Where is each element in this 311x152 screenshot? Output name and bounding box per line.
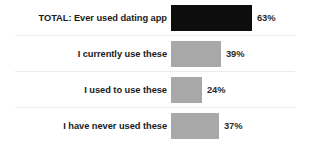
bar-segment bbox=[171, 77, 202, 103]
chart-rows: TOTAL: Ever used dating app 63% I curren… bbox=[0, 0, 311, 152]
bar-label: I have never used these bbox=[8, 121, 167, 132]
bar-segment bbox=[171, 41, 221, 67]
table-row[interactable]: I used to use these 24% bbox=[0, 72, 311, 108]
bar-value-label: 24% bbox=[207, 85, 225, 96]
bar-segment bbox=[171, 113, 219, 139]
bar-value-label: 39% bbox=[226, 49, 244, 60]
bar-label: I currently use these bbox=[8, 49, 167, 60]
table-row[interactable]: I have never used these 37% bbox=[0, 108, 311, 144]
bar-label: I used to use these bbox=[8, 85, 167, 96]
bar-value-label: 37% bbox=[224, 121, 242, 132]
bar-segment bbox=[171, 5, 252, 31]
bar-label: TOTAL: Ever used dating app bbox=[8, 13, 167, 24]
table-row[interactable]: I currently use these 39% bbox=[0, 36, 311, 72]
table-row[interactable]: TOTAL: Ever used dating app 63% bbox=[0, 0, 311, 36]
bar-value-label: 63% bbox=[257, 13, 275, 24]
bar-chart: TOTAL: Ever used dating app 63% I curren… bbox=[0, 0, 311, 152]
